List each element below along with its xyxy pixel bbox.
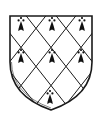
heraldic-shield [0,0,102,120]
lozengy-field [0,0,102,120]
shield-svg [0,0,102,120]
